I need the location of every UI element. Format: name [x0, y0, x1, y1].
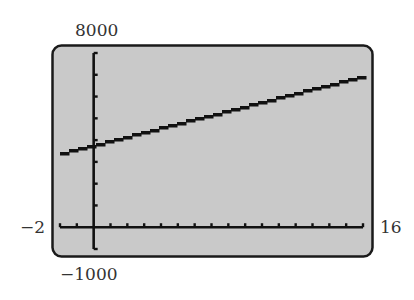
- plot-segment: [150, 129, 160, 133]
- plot-segment: [186, 119, 196, 123]
- plot-segment: [240, 106, 250, 110]
- plot-segment: [357, 76, 367, 80]
- plot-segment: [87, 145, 97, 149]
- plot-segment: [123, 136, 133, 140]
- plot-segment: [339, 80, 349, 84]
- plot-segment: [294, 92, 304, 96]
- plot-segment: [105, 140, 115, 144]
- plot-segment: [78, 147, 88, 151]
- plot-segment: [276, 96, 286, 100]
- plot-segment: [168, 124, 178, 128]
- plot-segment: [132, 133, 142, 137]
- plot-segment: [177, 122, 187, 126]
- plot-segment: [303, 89, 313, 93]
- plot-segment: [60, 152, 70, 156]
- plot-segment: [96, 143, 106, 147]
- plot-segment: [285, 94, 295, 98]
- plot-segment: [213, 113, 223, 117]
- plot-segment: [114, 138, 124, 142]
- plot-segment: [159, 126, 169, 130]
- plot-segment: [249, 103, 259, 107]
- plot-segment: [222, 110, 232, 114]
- plot-segment: [312, 87, 322, 91]
- plot-segment: [204, 115, 214, 119]
- plot-segment: [258, 101, 268, 105]
- plot-segment: [330, 83, 340, 87]
- plot-segment: [69, 149, 79, 153]
- plot-segment: [321, 85, 331, 89]
- plot-segment: [348, 78, 358, 82]
- plot-segment: [231, 108, 241, 112]
- plot-segment: [267, 99, 277, 103]
- calculator-screen: [0, 0, 414, 300]
- plot-segment: [141, 131, 151, 135]
- plot-segment: [195, 117, 205, 121]
